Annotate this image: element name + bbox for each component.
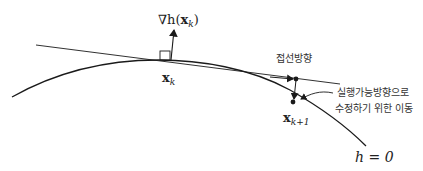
constraint-label: h = 0 xyxy=(355,149,394,165)
right-angle-marker xyxy=(160,51,170,60)
gradient-arrow xyxy=(171,30,174,60)
tangent-direction-label: 접선방향 xyxy=(276,53,312,64)
constraint-curve xyxy=(12,60,366,146)
point-xk1-label: xk+1 xyxy=(283,110,310,127)
correction-arrow xyxy=(294,80,296,99)
gradient-label: ∇h(xk) xyxy=(158,12,199,29)
diagram-canvas: ∇h(xk) xk xk+1 접선방향 실행가능방향으로 수정하기 위한 이동 … xyxy=(0,0,423,171)
label-pointer-arrow xyxy=(301,92,333,99)
point-xk1-dot xyxy=(291,100,296,105)
correction-label-line2: 수정하기 위한 이동 xyxy=(335,102,413,114)
point-xk-label: xk xyxy=(162,70,175,87)
correction-label-line1: 실행가능방향으로 xyxy=(337,87,409,98)
